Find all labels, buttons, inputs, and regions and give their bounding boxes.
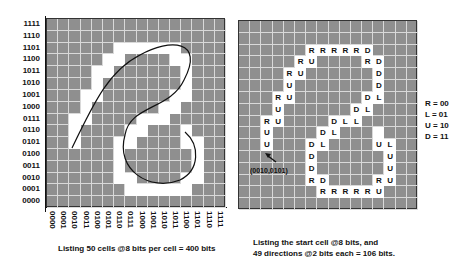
right-caption-line2: 49 directions @2 bits each = 106 bits. bbox=[253, 248, 395, 259]
legend-entry: L = 01 bbox=[425, 109, 449, 120]
right-caption-line1: Listing the start cell @8 bits, and bbox=[253, 237, 378, 248]
start-cell-label: (0010,0101) bbox=[250, 167, 288, 174]
start-arrow bbox=[268, 156, 276, 162]
shape-outline-overlay bbox=[0, 0, 460, 265]
left-caption: Listing 50 cells @8 bits per cell = 400 … bbox=[58, 243, 215, 254]
legend-entry: R = 00 bbox=[425, 98, 449, 109]
legend-entry: D = 11 bbox=[425, 131, 449, 142]
legend-entry: U = 10 bbox=[425, 120, 449, 131]
direction-legend: R = 00L = 01U = 10D = 11 bbox=[425, 98, 449, 142]
figure-eight-curve bbox=[72, 45, 196, 183]
